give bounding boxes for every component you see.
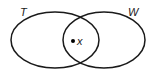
set-w-label: W xyxy=(128,6,140,18)
set-t-label: T xyxy=(20,6,28,18)
set-w-ellipse xyxy=(63,12,145,68)
set-t-ellipse xyxy=(11,12,99,68)
element-x-dot xyxy=(71,39,75,43)
element-x-label: x xyxy=(76,35,83,47)
venn-diagram: T W x xyxy=(0,0,148,71)
